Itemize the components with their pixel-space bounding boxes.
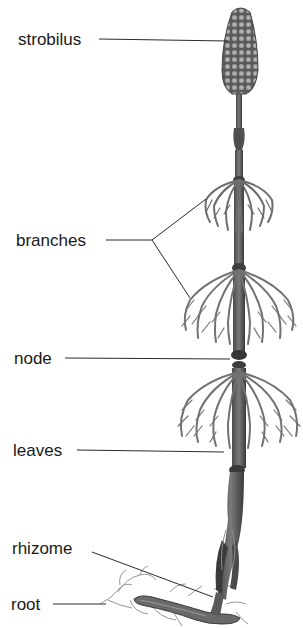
leader-leaves (77, 450, 224, 452)
label-leaves: leaves (13, 442, 62, 459)
horsetail-diagram: strobilus branches node leaves rhizome r… (0, 0, 303, 628)
strobilus-cone (222, 8, 258, 94)
label-branches: branches (16, 232, 86, 249)
leader-rhizome (92, 552, 213, 597)
label-root: root (11, 596, 40, 613)
label-rhizome: rhizome (12, 540, 72, 557)
leader-lines (53, 39, 230, 604)
leader-strobilus (99, 39, 228, 41)
leader-branches (106, 199, 206, 240)
main-stem (210, 90, 247, 616)
label-node: node (14, 350, 52, 367)
rhizome-shape (134, 596, 240, 624)
label-strobilus: strobilus (18, 31, 81, 48)
plant-illustration (0, 0, 303, 628)
leader-node (65, 358, 230, 359)
